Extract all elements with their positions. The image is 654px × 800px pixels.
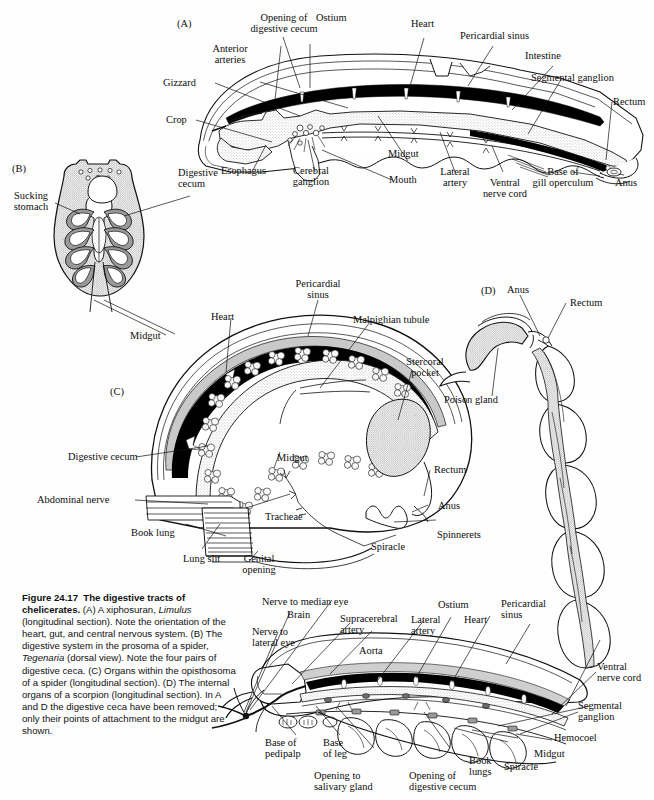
label-d-nerve-to-median-eye: Nerve to median eye — [262, 596, 348, 607]
label-a-ventral-nerve-cord: Ventral nerve cord — [479, 177, 531, 200]
label-d-spiracle: Spiracle — [504, 761, 538, 772]
figure-number: Figure 24.17 — [22, 592, 78, 603]
label-c-genital-opening: Genital opening — [232, 553, 286, 576]
label-d-lateral-artery: Lateral artery — [411, 614, 440, 637]
label-c-rectum: Rectum — [434, 464, 466, 475]
label-a-esophagus: Esophagus — [221, 165, 266, 176]
label-a-mouth: Mouth — [389, 174, 417, 185]
label-d-opening-to-salivary-gland: Opening to salivary gland — [314, 770, 373, 793]
label-d-aorta: Aorta — [359, 645, 383, 656]
label-d-poison-gland: Poison gland — [444, 394, 498, 405]
label-c-abdominal-nerve: Abdominal nerve — [37, 494, 109, 505]
label-a-heart: Heart — [411, 18, 434, 29]
panel-c-artwork — [146, 315, 472, 569]
label-d-base-of-pedipalp: Base of pedipalp — [265, 737, 301, 760]
label-c-stercoral-pocket: Stercoral pocket — [400, 356, 450, 379]
label-d-rectum: Rectum — [570, 297, 602, 308]
label-a-anterior-arteries: Anterior arteries — [198, 43, 262, 66]
label-c-tracheae: Tracheae — [265, 511, 303, 522]
label-d-segmental-ganglion: Segmental ganglion — [578, 700, 622, 723]
label-a-rectum: Rectum — [613, 96, 645, 107]
label-a-gizzard: Gizzard — [163, 77, 196, 88]
panel-id-b: (B) — [12, 163, 26, 174]
label-c-spiracle: Spiracle — [371, 541, 405, 552]
label-a-cerebral-ganglion: Cerebral ganglion — [283, 165, 339, 188]
label-c-pericardial-sinus: Pericardial sinus — [288, 278, 348, 301]
figure-page: (A) (B) (C) (D) Opening of digestive cec… — [0, 0, 654, 800]
label-c-anus: Anus — [438, 500, 460, 511]
panel-id-a: (A) — [177, 18, 192, 29]
panel-d-artwork — [212, 313, 610, 768]
label-d-ostium: Ostium — [438, 599, 469, 610]
label-a-ostium: Ostium — [316, 12, 347, 23]
label-d-midgut: Midgut — [534, 748, 565, 759]
label-c-digestive-cecum: Digestive cecum — [68, 451, 138, 462]
label-a-base-of-gill-operculum: Base of gill operculum — [530, 166, 596, 189]
label-d-hemocoel: Hemocoel — [554, 732, 597, 743]
taxon-limulus: Limulus — [159, 604, 192, 615]
label-a-lateral-artery: Lateral artery — [432, 166, 478, 189]
caption-part-3: (dorsal view). Note the four pairs of di… — [22, 652, 236, 736]
panel-id-c: (C) — [110, 386, 124, 397]
label-c-malpighian-tubule: Malpighian tubule — [353, 314, 429, 325]
label-c-book-lung: Book lung — [131, 527, 175, 538]
label-d-anus: Anus — [507, 284, 529, 295]
taxon-tegenaria: Tegenaria — [22, 652, 64, 663]
label-d-ventral-nerve-cord: Ventral nerve cord — [597, 661, 641, 684]
panel-b-artwork — [54, 160, 144, 312]
caption-part-1: (A) A xiphosuran, — [80, 604, 158, 615]
caption-part-2: (longitudinal section). Note the orienta… — [22, 616, 226, 651]
label-a-midgut: Midgut — [388, 148, 419, 159]
label-c-lung-slit: Lung slit — [183, 553, 220, 564]
label-d-pericardial-sinus: Pericardial sinus — [501, 598, 546, 621]
label-a-pericardial-sinus: Pericardial sinus — [460, 30, 529, 41]
label-d-nerve-to-lateral-eye: Nerve to lateral eye — [252, 626, 295, 649]
label-b-midgut: Midgut — [130, 330, 161, 341]
label-b-digestive-cecum: Digestive cecum — [178, 167, 218, 190]
label-a-intestine: Intestine — [525, 50, 561, 61]
panel-id-d: (D) — [481, 285, 496, 296]
label-d-heart: Heart — [464, 614, 487, 625]
label-d-brain: Brain — [287, 609, 310, 620]
label-a-crop: Crop — [166, 114, 187, 125]
label-d-opening-of-digestive-cecum: Opening of digestive cecum — [409, 770, 476, 793]
label-d-base-of-leg: Base of leg — [323, 737, 347, 760]
label-c-midgut: Midgut — [277, 452, 308, 463]
figure-caption: Figure 24.17 The digestive tracts of che… — [22, 592, 237, 737]
label-b-sucking-stomach: Sucking stomach — [6, 190, 56, 213]
label-a-anus: Anus — [615, 177, 637, 188]
label-c-heart: Heart — [211, 311, 234, 322]
label-d-supracerebral-artery: Supracerebral artery — [340, 613, 398, 636]
label-a-segmental-ganglion: Segmental ganglion — [531, 72, 614, 83]
label-c-spinnerets: Spinnerets — [437, 529, 481, 540]
